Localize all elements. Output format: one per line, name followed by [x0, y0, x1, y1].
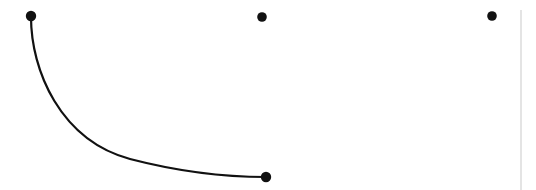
data-point-4 [261, 172, 271, 182]
data-point-1 [26, 11, 36, 21]
figure-canvas [0, 0, 536, 190]
figure-svg [0, 0, 536, 190]
figure-background [0, 0, 536, 190]
data-point-2 [257, 12, 267, 22]
data-point-3 [487, 11, 497, 21]
